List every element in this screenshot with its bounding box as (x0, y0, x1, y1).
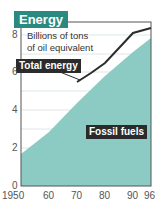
x-tick-80: 80 (99, 190, 110, 201)
chart-title: Energy (14, 11, 68, 28)
y-tick-4: 4 (12, 104, 18, 115)
x-tick-90: 90 (127, 190, 138, 201)
x-tick-60: 60 (43, 190, 54, 201)
unit-label: Billions of tons of oil equivalent (27, 30, 93, 54)
unit-line-2: of oil equivalent (27, 42, 93, 54)
y-tick-6: 6 (12, 66, 18, 77)
unit-line-1: Billions of tons (27, 30, 93, 42)
y-tick-8: 8 (12, 29, 18, 40)
fossil-fuels-label: Fossil fuels (86, 125, 147, 139)
x-tick-96: 96 (144, 190, 155, 201)
label-leader (60, 72, 80, 80)
y-tick-2: 2 (12, 142, 18, 153)
x-tick-70: 70 (71, 190, 82, 201)
total-energy-label: Total energy (16, 59, 81, 73)
x-tick-1950: 1950 (2, 190, 24, 201)
